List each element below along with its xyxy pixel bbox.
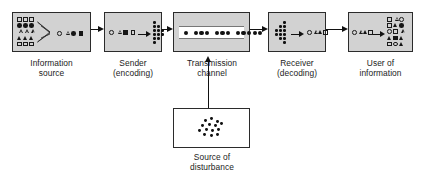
signal-dot <box>157 33 160 36</box>
glyph-sq-o <box>29 17 34 22</box>
glyph-sq-o <box>393 29 398 34</box>
glyph-sq-o <box>17 42 22 47</box>
noise-dot <box>216 120 219 123</box>
noise-dot <box>205 128 208 131</box>
glyph-ci-o <box>109 30 114 35</box>
glyph-sq-f <box>79 31 84 36</box>
glyph-tr-o <box>119 34 123 38</box>
glyph-ci-o <box>387 29 392 34</box>
glyph-tr-f <box>399 36 403 40</box>
box-receiver-decoding <box>268 12 326 52</box>
noise-dot <box>214 124 217 127</box>
signal-dot <box>283 21 286 24</box>
channel-dot <box>184 31 188 35</box>
glyph-sq-o <box>17 17 22 22</box>
glyph-ci-o <box>307 30 312 35</box>
signal-dot <box>283 25 286 28</box>
glyph-tr-f <box>23 36 27 40</box>
connector-receiver-to-user <box>326 26 348 33</box>
channel-dot <box>194 31 198 35</box>
arrow-head <box>205 56 211 62</box>
glyph-ci-o <box>393 42 398 47</box>
signal-dot <box>157 29 160 32</box>
glyph-sq-o <box>387 23 392 28</box>
noise-dot <box>210 117 213 120</box>
box-information-source <box>12 12 91 52</box>
box-transmission-channel <box>173 12 250 52</box>
box-sender-encoding <box>104 12 162 52</box>
glyph-tr-f <box>387 36 391 40</box>
glyph-sq-o <box>387 42 392 47</box>
channel-dot <box>226 31 230 35</box>
signal-dot <box>157 25 160 28</box>
signal-dot <box>283 33 286 36</box>
box-user-of-information <box>348 12 413 52</box>
glyph-ci-f <box>29 23 34 28</box>
glyph-ci-o <box>57 31 62 36</box>
glyph-ci-f <box>17 23 22 28</box>
signal-dot <box>153 37 156 40</box>
glyph-ci-f <box>71 31 76 36</box>
box-source-of-disturbance <box>173 108 250 148</box>
noise-dot <box>203 133 206 136</box>
caption-sender-encoding: Sender (encoding) <box>104 58 162 78</box>
channel-dot <box>205 31 209 35</box>
arrow-shaft <box>91 29 98 30</box>
caption-user-of-information: User of information <box>348 58 413 78</box>
glyph-tr-f <box>29 36 33 40</box>
glyph-ci-o <box>399 17 404 22</box>
noise-dot <box>217 128 220 131</box>
arrow-head <box>146 31 151 37</box>
signal-dot <box>157 37 160 40</box>
glyph-ci-o <box>352 30 357 35</box>
channel-dot <box>199 31 203 35</box>
signal-dot <box>283 37 286 40</box>
signal-dot <box>161 33 164 36</box>
signal-dot <box>275 33 278 36</box>
caption-receiver-decoding: Receiver (decoding) <box>268 58 326 78</box>
signal-dot <box>153 21 156 24</box>
signal-dot <box>279 29 282 32</box>
signal-dot <box>153 29 156 32</box>
glyph-ci-f <box>399 23 404 28</box>
signal-dot <box>153 41 156 44</box>
arrow-shaft <box>291 34 299 35</box>
arrow-head <box>167 26 173 32</box>
glyph-tr-f <box>318 30 322 34</box>
signal-dot <box>275 29 278 32</box>
signal-dot <box>279 37 282 40</box>
connector-disturbance-to-channel <box>205 56 212 108</box>
glyph-sq-f <box>393 36 398 41</box>
arrow-shaft <box>208 62 209 108</box>
signal-dot <box>153 33 156 36</box>
noise-dot <box>216 133 219 136</box>
glyph-tr-f <box>17 36 21 40</box>
connector-sender-to-channel <box>162 26 173 33</box>
channel-dot <box>220 31 224 35</box>
arrow-head <box>342 26 348 32</box>
caption-information-source: Information source <box>12 58 91 78</box>
glyph-tr-f <box>393 23 397 27</box>
arrow-head <box>380 31 385 37</box>
inner-flow-arrow <box>291 31 304 37</box>
noise-dot <box>201 124 204 127</box>
box-content-receiver-decoding <box>269 13 325 51</box>
signal-band <box>179 26 244 39</box>
signal-dot <box>283 29 286 32</box>
signal-dot <box>279 33 282 36</box>
funnel-icon <box>37 21 53 45</box>
arrow-shaft <box>250 29 262 30</box>
arrow-head <box>299 31 304 37</box>
noise-dot <box>208 123 211 126</box>
connector-channel-to-receiver <box>250 26 268 33</box>
channel-dot <box>215 31 219 35</box>
noise-dot <box>220 122 223 125</box>
signal-dot <box>279 25 282 28</box>
box-content-sender-encoding <box>105 13 161 51</box>
channel-dot <box>236 31 240 35</box>
glyph-sq-o <box>23 17 28 22</box>
connector-source-to-sender <box>91 26 104 33</box>
box-content-source-of-disturbance <box>174 109 249 147</box>
arrow-shaft <box>326 29 342 30</box>
glyph-tr-o <box>67 35 71 39</box>
